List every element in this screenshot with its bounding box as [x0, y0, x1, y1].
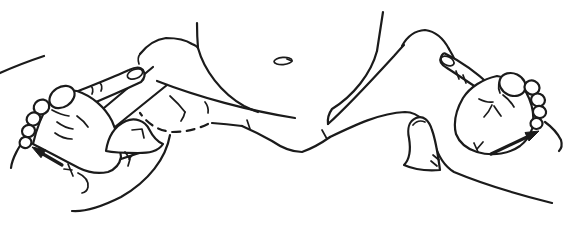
left-knee-outline	[140, 38, 198, 54]
abdomen-left-edge	[198, 48, 258, 112]
illustration-stage: Black-and-white line drawing of an infan…	[0, 0, 568, 227]
perineum-curve	[242, 126, 330, 152]
examiner-right-thumb	[404, 117, 440, 170]
infant-right-leg	[328, 30, 461, 124]
infant-torso	[197, 12, 383, 124]
right-flank-line	[377, 12, 383, 51]
illustration-canvas: Black-and-white line drawing of an infan…	[0, 0, 568, 227]
abdomen-right-edge	[328, 51, 377, 124]
left-inner-thigh-line	[212, 123, 242, 126]
left-thigh-line	[157, 81, 295, 118]
left-knee-connector	[138, 54, 140, 64]
figure-infant-hip-exam: Black-and-white line drawing of an infan…	[0, 0, 568, 227]
left-hand-upper-edge-line	[0, 56, 44, 73]
right-hand-edge-below-toes	[545, 122, 562, 151]
right-toe-5	[530, 117, 543, 129]
left-flank-line	[197, 23, 198, 48]
left-groin-tick	[205, 102, 208, 113]
left-groin-crease-hook	[181, 112, 185, 121]
navel	[274, 57, 292, 65]
right-thumb	[404, 117, 440, 170]
perineum-tick-right	[322, 130, 327, 139]
left-heel-tick-2	[64, 169, 72, 170]
left-groin-crease	[170, 96, 185, 112]
right-knee-outline	[402, 30, 449, 49]
left-heel-hook	[78, 173, 88, 193]
right-thigh-line	[328, 45, 404, 124]
